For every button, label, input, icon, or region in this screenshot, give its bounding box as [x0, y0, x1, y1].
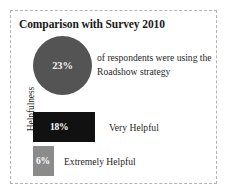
- circle-stat-shape: 23%: [33, 36, 92, 95]
- infographic-panel: Comparison with Survey 2010 23% of respo…: [0, 0, 228, 195]
- bar-label-extremely-helpful: Extremely Helpful: [64, 146, 136, 176]
- bar-value-very-helpful: 18%: [50, 112, 68, 142]
- circle-stat-caption: of respondents were using the Roadshow s…: [97, 51, 217, 78]
- page-title: Comparison with Survey 2010: [19, 18, 165, 30]
- bar-label-very-helpful: Very Helpful: [109, 112, 159, 142]
- circle-stat-value: 23%: [33, 36, 92, 95]
- bar-value-extremely-helpful: 6%: [36, 146, 50, 176]
